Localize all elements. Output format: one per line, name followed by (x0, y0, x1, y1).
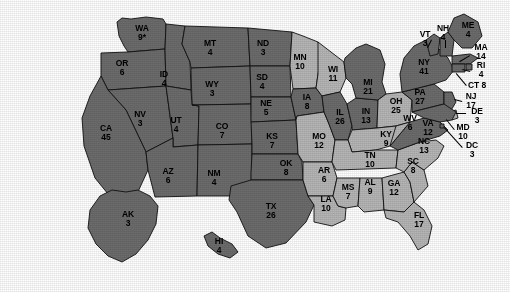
state-shape-ar (303, 162, 337, 196)
state-shape-sd (250, 66, 291, 97)
state-shape-tx (229, 180, 314, 248)
state-shape-mt (182, 26, 250, 68)
state-shape-ma (452, 54, 478, 64)
state-shape-wa (117, 17, 166, 52)
us-map-svg (0, 0, 510, 292)
state-shapes (82, 14, 482, 262)
state-shape-ms (333, 178, 360, 208)
state-shape-ks (251, 120, 298, 154)
state-shape-wi (316, 42, 346, 96)
state-shape-in (347, 98, 378, 130)
state-shape-ok (251, 154, 303, 180)
state-shape-hi (204, 232, 238, 258)
state-shape-wy (191, 66, 251, 105)
state-shape-or (101, 49, 166, 90)
state-shape-mi (344, 44, 386, 100)
leader-de (456, 113, 466, 114)
state-shape-al (358, 178, 384, 212)
state-shape-ak (88, 190, 158, 262)
state-shape-co (192, 104, 252, 145)
leader-nh (445, 40, 446, 48)
state-shape-ne (251, 97, 296, 122)
state-shape-nd (248, 28, 292, 66)
electoral-map: WA9*OR6CA45NV3ID4MT4WY3UT4AZ6CO7NM4ND3SD… (0, 0, 510, 292)
state-shape-ri (466, 64, 472, 70)
state-shape-ct (452, 64, 465, 72)
